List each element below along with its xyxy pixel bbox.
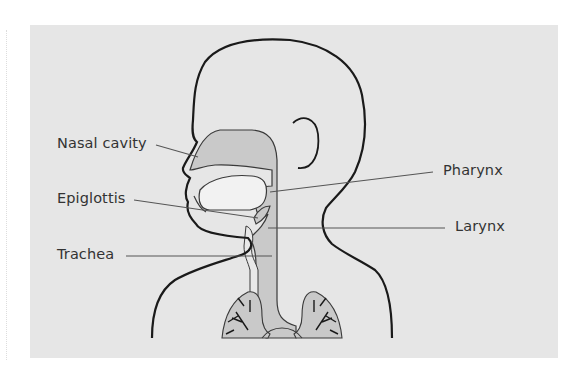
leader-lines [126,145,445,256]
label-nasal-cavity: Nasal cavity [57,136,147,151]
label-larynx: Larynx [455,219,505,234]
pharynx-leader [270,172,433,192]
respiratory-diagram [0,0,566,374]
label-epiglottis: Epiglottis [57,191,125,206]
ear-icon [293,118,318,168]
label-pharynx: Pharynx [443,163,503,178]
label-trachea: Trachea [57,247,114,262]
